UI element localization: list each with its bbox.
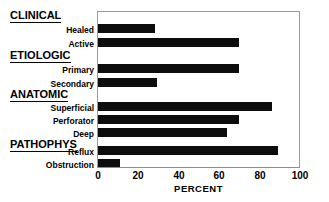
bar-perforator <box>98 115 239 124</box>
bar-chart: CLINICAL Healed Active ETIOLOGIC Primary… <box>0 0 329 202</box>
x-tick-60: 60 <box>213 170 224 181</box>
row-label-primary: Primary <box>62 64 94 76</box>
group-header-clinical: CLINICAL <box>10 9 61 23</box>
x-tick-100: 100 <box>292 170 309 181</box>
category-label-column: CLINICAL Healed Active ETIOLOGIC Primary… <box>0 0 97 202</box>
bar-deep <box>98 128 227 137</box>
bar-superficial <box>98 102 272 111</box>
group-header-pathophys: PATHOPHYS <box>10 138 77 152</box>
x-axis-title: PERCENT <box>97 183 300 194</box>
bar-primary <box>98 64 239 73</box>
bar-active <box>98 38 239 47</box>
x-tick-80: 80 <box>254 170 265 181</box>
x-axis-line <box>97 167 300 168</box>
row-label-reflux: Reflux <box>68 146 94 158</box>
row-label-superficial: Superficial <box>51 102 94 114</box>
row-label-obstruction: Obstruction <box>46 159 94 171</box>
row-label-active: Active <box>68 38 94 50</box>
bar-reflux <box>98 146 278 155</box>
group-header-etiologic: ETIOLOGIC <box>10 49 71 63</box>
x-tick-40: 40 <box>173 170 184 181</box>
bar-secondary <box>98 78 157 87</box>
group-header-anatomic: ANATOMIC <box>10 88 68 102</box>
x-tick-0: 0 <box>95 170 101 181</box>
bars-layer <box>98 11 300 168</box>
row-label-healed: Healed <box>66 24 94 36</box>
row-label-perforator: Perforator <box>53 115 94 127</box>
x-tick-20: 20 <box>132 170 143 181</box>
bar-healed <box>98 24 155 33</box>
